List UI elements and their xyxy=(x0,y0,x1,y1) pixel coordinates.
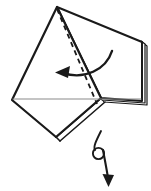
origami-diagram-figure: 5 xyxy=(0,0,151,191)
origami-diagram-svg xyxy=(0,0,151,191)
